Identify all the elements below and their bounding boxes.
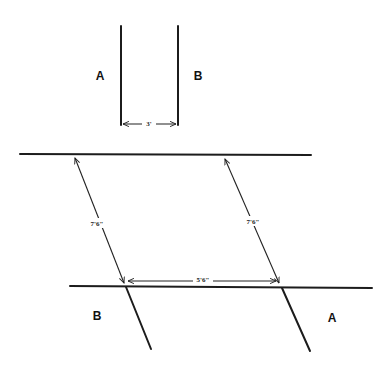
- slant-line-right: [282, 288, 310, 351]
- upper-horizontal-line: [20, 154, 311, 155]
- slant-line-left: [126, 287, 151, 349]
- right-slant-dimension-label: 7'6": [247, 218, 260, 226]
- bottom-panel: 7'6" 7'6" 5'6" B A: [20, 154, 372, 351]
- bottom-label-b: B: [93, 309, 102, 323]
- gap-dimension-label: 3': [146, 120, 152, 128]
- top-label-b: B: [194, 69, 203, 83]
- left-slant-dimension-label: 7'6": [91, 220, 104, 228]
- top-label-a: A: [96, 69, 105, 83]
- parking-diagram: 3' A B 7'6" 7'6" 5'6" B A: [0, 0, 389, 369]
- lower-horizontal-line: [70, 286, 372, 288]
- bottom-label-a: A: [328, 311, 337, 325]
- horizontal-dimension-label: 5'6": [197, 276, 210, 284]
- top-panel: 3' A B: [96, 26, 203, 128]
